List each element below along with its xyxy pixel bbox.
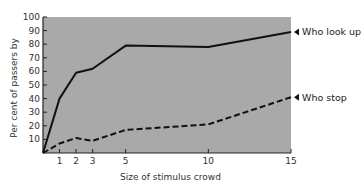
y-axis: 102030405060708090100: [23, 12, 47, 153]
x-tick-label: 10: [203, 156, 215, 166]
y-tick-label: 100: [23, 12, 40, 22]
x-tick-label: 15: [285, 156, 296, 166]
y-tick-label: 30: [29, 107, 41, 117]
plot-area: [43, 17, 291, 153]
legend: Who look upWho stop: [294, 26, 361, 102]
y-tick-label: 10: [29, 134, 41, 144]
line-chart: 102030405060708090100 12351015 Who look …: [0, 0, 364, 186]
legend-label: Who stop: [302, 92, 347, 103]
legend-label: Who look up: [302, 26, 361, 37]
y-tick-label: 60: [29, 66, 41, 76]
legend-pointer-icon: [294, 28, 299, 35]
x-axis-title: Size of stimulus crowd: [120, 172, 221, 182]
x-tick-label: 2: [73, 156, 79, 166]
y-axis-title: Per cent of passers by: [9, 37, 19, 137]
legend-pointer-icon: [294, 94, 299, 101]
y-tick-label: 80: [29, 39, 41, 49]
y-tick-label: 20: [29, 121, 41, 131]
y-tick-label: 90: [29, 26, 41, 36]
x-tick-label: 3: [90, 156, 96, 166]
x-tick-label: 5: [123, 156, 129, 166]
y-tick-label: 40: [29, 94, 41, 104]
y-tick-label: 70: [29, 53, 41, 63]
y-tick-label: 50: [29, 80, 41, 90]
x-tick-label: 1: [57, 156, 63, 166]
